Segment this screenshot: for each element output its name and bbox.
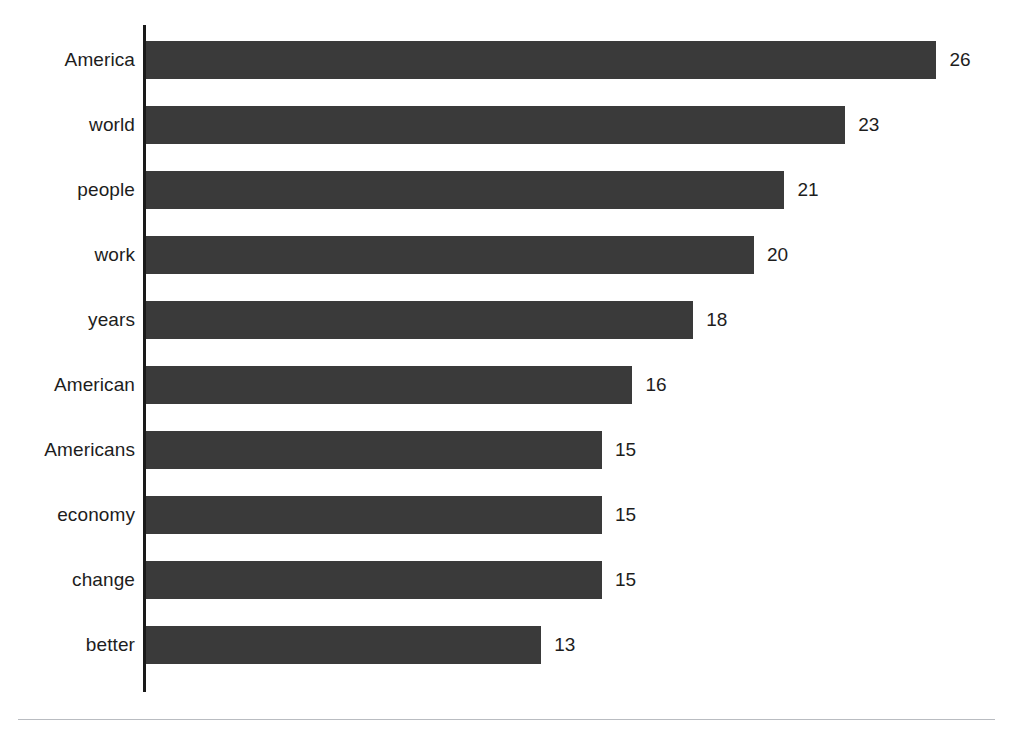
bar-track: 15 bbox=[146, 482, 636, 547]
bar-track: 16 bbox=[146, 352, 667, 417]
bar-value-label: 23 bbox=[858, 115, 879, 134]
bar-track: 23 bbox=[146, 92, 879, 157]
bar-track: 13 bbox=[146, 612, 575, 677]
bar-row[interactable]: work20 bbox=[0, 222, 1010, 287]
bar-track: 21 bbox=[146, 157, 819, 222]
bar-rect[interactable] bbox=[146, 561, 602, 599]
bar-value-label: 15 bbox=[615, 570, 636, 589]
bar-value-label: 18 bbox=[706, 310, 727, 329]
bar-category-label: people bbox=[0, 157, 135, 222]
bar-track: 15 bbox=[146, 417, 636, 482]
bar-value-label: 21 bbox=[797, 180, 818, 199]
bar-row[interactable]: American16 bbox=[0, 352, 1010, 417]
bars-layer: America26world23people21work20years18Ame… bbox=[0, 0, 1010, 730]
bar-rect[interactable] bbox=[146, 626, 541, 664]
bar-rect[interactable] bbox=[146, 171, 784, 209]
bar-value-label: 16 bbox=[645, 375, 666, 394]
bar-chart: America26world23people21work20years18Ame… bbox=[0, 0, 1010, 730]
bar-value-label: 26 bbox=[949, 50, 970, 69]
bar-row[interactable]: change15 bbox=[0, 547, 1010, 612]
bar-category-label: America bbox=[0, 27, 135, 92]
bar-track: 26 bbox=[146, 27, 971, 92]
bar-rect[interactable] bbox=[146, 301, 693, 339]
bar-category-label: change bbox=[0, 547, 135, 612]
page-bottom-rule bbox=[18, 719, 995, 720]
bar-value-label: 15 bbox=[615, 505, 636, 524]
bar-category-label: Americans bbox=[0, 417, 135, 482]
bar-rect[interactable] bbox=[146, 41, 936, 79]
bar-category-label: world bbox=[0, 92, 135, 157]
bar-value-label: 20 bbox=[767, 245, 788, 264]
bar-rect[interactable] bbox=[146, 366, 632, 404]
bar-rect[interactable] bbox=[146, 431, 602, 469]
bar-track: 18 bbox=[146, 287, 727, 352]
bar-row[interactable]: years18 bbox=[0, 287, 1010, 352]
bar-category-label: economy bbox=[0, 482, 135, 547]
bar-rect[interactable] bbox=[146, 496, 602, 534]
bar-row[interactable]: America26 bbox=[0, 27, 1010, 92]
bar-category-label: years bbox=[0, 287, 135, 352]
bar-row[interactable]: Americans15 bbox=[0, 417, 1010, 482]
bar-value-label: 13 bbox=[554, 635, 575, 654]
bar-row[interactable]: better13 bbox=[0, 612, 1010, 677]
bar-rect[interactable] bbox=[146, 106, 845, 144]
bar-rect[interactable] bbox=[146, 236, 754, 274]
bar-row[interactable]: people21 bbox=[0, 157, 1010, 222]
bar-row[interactable]: economy15 bbox=[0, 482, 1010, 547]
bar-category-label: work bbox=[0, 222, 135, 287]
bar-track: 15 bbox=[146, 547, 636, 612]
bar-category-label: American bbox=[0, 352, 135, 417]
bar-row[interactable]: world23 bbox=[0, 92, 1010, 157]
bar-value-label: 15 bbox=[615, 440, 636, 459]
bar-category-label: better bbox=[0, 612, 135, 677]
bar-track: 20 bbox=[146, 222, 788, 287]
